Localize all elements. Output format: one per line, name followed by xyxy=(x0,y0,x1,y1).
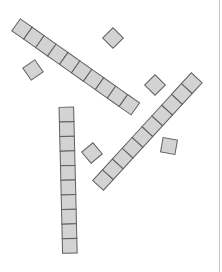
right-border-divider xyxy=(219,0,220,272)
rod-unit-cell xyxy=(60,151,75,166)
unit-cube xyxy=(23,60,43,80)
rod-unit-cell xyxy=(61,180,76,195)
rod-unit-cell xyxy=(62,238,77,253)
ten-rod xyxy=(59,107,77,253)
rod-unit-cell xyxy=(62,224,77,239)
unit-square xyxy=(23,60,43,80)
unit-square xyxy=(145,75,166,96)
unit-square xyxy=(82,143,103,164)
unit-cube xyxy=(161,138,178,155)
unit-cube xyxy=(82,143,103,164)
rod-unit-cell xyxy=(59,107,74,122)
rod-unit-cell xyxy=(59,122,74,137)
unit-square xyxy=(161,138,178,155)
unit-square xyxy=(103,28,124,49)
rod-unit-cell xyxy=(60,165,75,180)
rod-unit-cell xyxy=(60,136,75,151)
rod-unit-cell xyxy=(61,195,76,210)
unit-cube xyxy=(103,28,124,49)
base-ten-blocks-diagram xyxy=(0,0,222,272)
unit-cube xyxy=(145,75,166,96)
rod-unit-cell xyxy=(62,209,77,224)
